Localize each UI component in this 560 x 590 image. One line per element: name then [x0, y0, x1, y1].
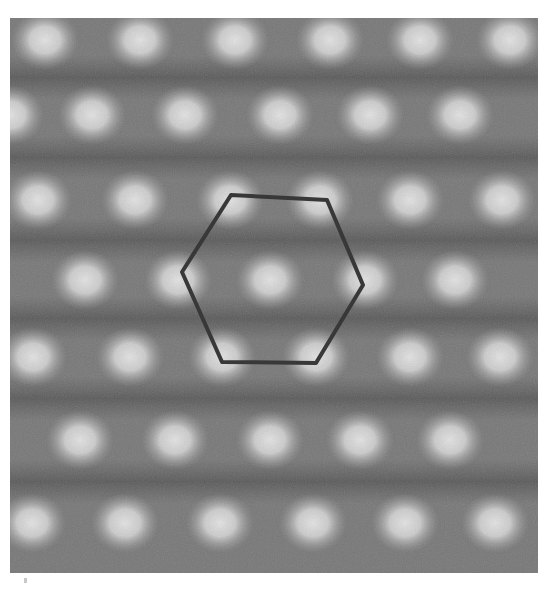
print-artifact	[24, 578, 27, 583]
micrograph-figure	[10, 18, 538, 573]
noise-texture	[10, 18, 538, 573]
lattice-image	[10, 18, 538, 573]
